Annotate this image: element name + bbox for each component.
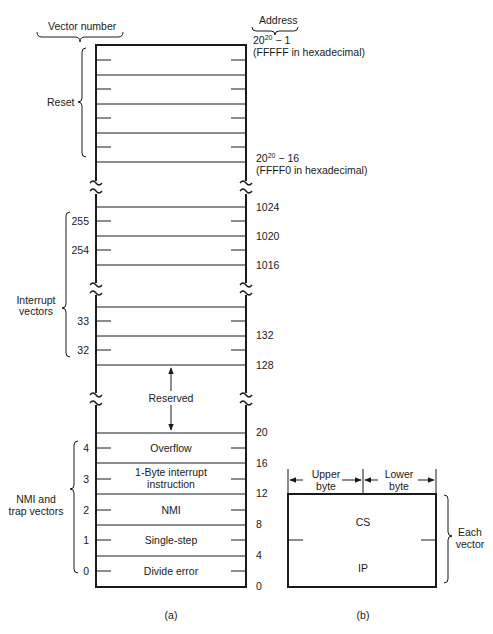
vector-number-brace [37, 32, 123, 42]
row-1byte-interrupt-2: instruction [147, 478, 195, 490]
svg-text:16: 16 [256, 457, 268, 469]
svg-text:1: 1 [83, 534, 89, 546]
each-vector-brace [444, 495, 452, 583]
caption-b: (b) [357, 609, 370, 621]
vector-number-header: Vector number [48, 20, 117, 32]
upper-byte-label: Upper [312, 468, 341, 480]
svg-text:1020: 1020 [256, 230, 280, 242]
svg-text:3: 3 [83, 473, 89, 485]
caption-a: (a) [165, 609, 178, 621]
lower-byte-label-2: byte [389, 480, 409, 492]
svg-text:132: 132 [256, 329, 274, 341]
cs-label: CS [356, 516, 371, 528]
reset-address-hex: (FFFF0 in hexadecimal) [256, 164, 367, 176]
reset-brace [78, 48, 86, 157]
ip-label: IP [358, 562, 368, 574]
svg-text:33: 33 [77, 315, 89, 327]
svg-text:20: 20 [256, 426, 268, 438]
svg-text:128: 128 [256, 359, 274, 371]
svg-text:12: 12 [256, 487, 268, 499]
top-address: 2020 − 1 [253, 34, 290, 46]
svg-text:1016: 1016 [256, 259, 280, 271]
top-address-hex: (FFFFF in hexadecimal) [253, 46, 365, 58]
row-divide-error: Divide error [144, 565, 199, 577]
upper-byte-label-2: byte [316, 480, 336, 492]
interrupt-vectors-label-2: vectors [19, 305, 53, 317]
nmi-trap-label-2: trap vectors [9, 505, 64, 517]
interrupt-vector-table-diagram: Vector number Address 2020 − 1 (FFFFF in… [0, 0, 493, 634]
svg-text:4: 4 [256, 549, 262, 561]
svg-text:1024: 1024 [256, 201, 280, 213]
svg-text:8: 8 [256, 518, 262, 530]
svg-text:32: 32 [77, 344, 89, 356]
address-header: Address [259, 14, 298, 26]
vector-format-box [288, 469, 452, 587]
reset-label: Reset [47, 96, 75, 108]
interrupt-vectors-brace [62, 212, 70, 357]
lower-byte-label: Lower [385, 468, 414, 480]
row-overflow: Overflow [150, 442, 192, 454]
svg-text:0: 0 [256, 580, 262, 592]
svg-text:255: 255 [71, 215, 89, 227]
svg-text:0: 0 [83, 565, 89, 577]
row-single-step: Single-step [145, 534, 198, 546]
nmi-trap-label: NMI and [16, 493, 56, 505]
row-nmi: NMI [161, 504, 180, 516]
reset-address: 2020 − 16 [256, 152, 299, 164]
each-vector-label: Each [458, 526, 482, 538]
svg-text:254: 254 [71, 244, 89, 256]
reserved-label: Reserved [149, 392, 194, 404]
svg-text:4: 4 [83, 442, 89, 454]
nmi-trap-brace [70, 441, 78, 573]
svg-text:2: 2 [83, 504, 89, 516]
addresses: 1024 1020 1016 132 128 20 16 12 8 4 0 [256, 201, 280, 592]
each-vector-label-2: vector [456, 538, 485, 550]
row-1byte-interrupt: 1-Byte interrupt [135, 466, 207, 478]
